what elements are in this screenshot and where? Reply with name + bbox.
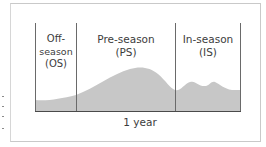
phase-label-pre-season: Pre-season (PS)	[77, 33, 175, 58]
phase-label-line: Pre-season	[77, 33, 175, 45]
phase-label-line: (OS)	[36, 58, 76, 71]
phase-label-line: (PS)	[77, 46, 175, 58]
phase-label-off-season: Off- season (OS)	[36, 33, 76, 71]
training-load-area	[35, 67, 240, 111]
phase-label-in-season: In-season (IS)	[176, 33, 240, 58]
phase-label-line: Off-	[36, 33, 76, 46]
axis-label-duration: 1 year	[100, 116, 180, 128]
phase-label-line: season	[36, 46, 76, 59]
phase-label-line: (IS)	[176, 46, 240, 58]
phase-label-line: In-season	[176, 33, 240, 45]
